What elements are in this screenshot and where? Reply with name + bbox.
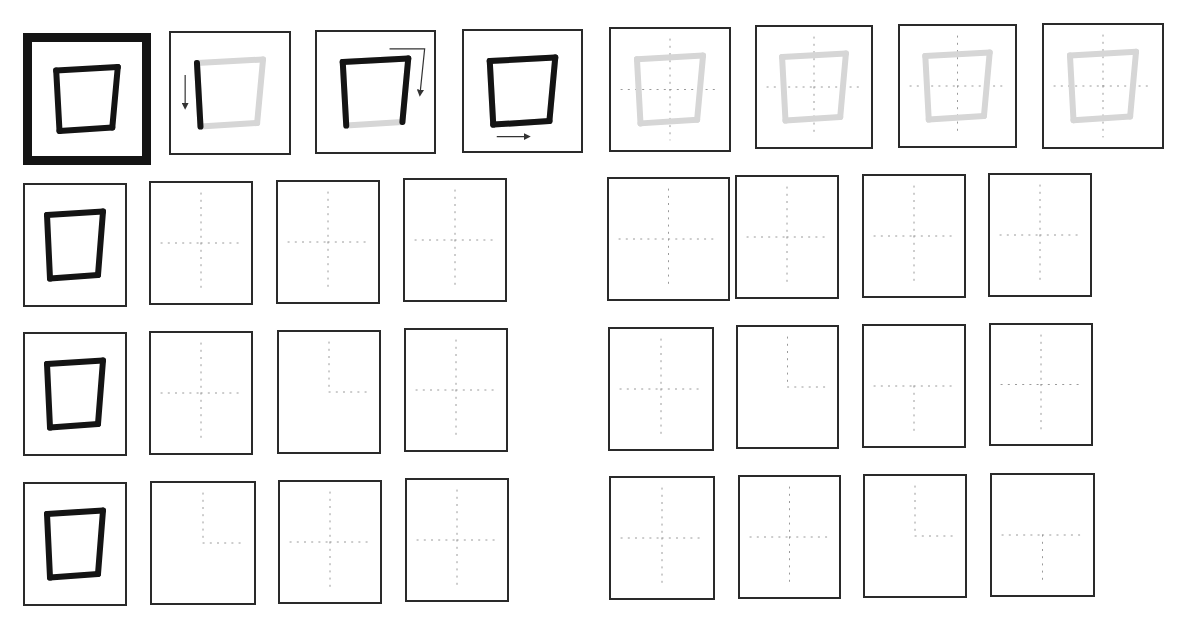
quadrilateral-edge: [47, 364, 50, 428]
drawing-panel-blank[interactable]: [276, 180, 380, 304]
panel-canvas: [865, 476, 965, 596]
panel-canvas: [464, 31, 581, 151]
drawing-panel-blank[interactable]: [149, 331, 253, 455]
panel-canvas: [610, 329, 712, 449]
stroke-order-panel: [315, 30, 436, 154]
panel-canvas: [151, 333, 251, 453]
drawing-panel-blank[interactable]: [405, 478, 509, 602]
drawing-panel-blank[interactable]: [150, 481, 256, 605]
drawing-panel-blank[interactable]: [738, 475, 841, 599]
quadrilateral-edge: [47, 211, 103, 215]
drawing-panel-blank[interactable]: [609, 476, 715, 600]
trace-panel[interactable]: [755, 25, 873, 149]
panel-canvas: [611, 29, 729, 150]
quadrilateral-edge: [56, 67, 118, 70]
trace-edge: [697, 56, 703, 120]
stroke-order-panel: [169, 31, 291, 155]
trace-edge: [1074, 117, 1131, 121]
trace-edge: [1070, 56, 1074, 121]
model-panel: [23, 332, 127, 456]
stroke-edge: [493, 121, 549, 125]
quadrilateral-edge: [98, 211, 103, 275]
quadrilateral-edge: [98, 360, 103, 424]
stroke-edge: [343, 58, 409, 62]
drawing-panel-blank[interactable]: [862, 174, 966, 298]
panel-canvas: [864, 176, 964, 296]
stroke-edge: [343, 62, 347, 126]
quadrilateral-edge: [98, 510, 103, 574]
quadrilateral-edge: [56, 71, 59, 131]
drawing-panel-blank[interactable]: [988, 173, 1092, 297]
trace-edge: [1130, 52, 1136, 117]
trace-edge: [984, 52, 990, 116]
trace-edge: [637, 56, 703, 60]
trace-panel[interactable]: [1042, 23, 1164, 149]
panel-canvas: [991, 325, 1091, 444]
panel-canvas: [1044, 25, 1162, 147]
drawing-panel-blank[interactable]: [607, 177, 730, 301]
trace-edge: [1070, 52, 1136, 56]
panel-canvas: [32, 42, 142, 156]
panel-canvas: [405, 180, 505, 300]
panel-canvas: [900, 26, 1015, 146]
trace-edge: [637, 59, 641, 123]
trace-edge: [840, 53, 846, 117]
stroke-edge: [490, 57, 556, 61]
drawing-panel-blank[interactable]: [149, 181, 253, 305]
trace-panel[interactable]: [609, 27, 731, 152]
stroke-edge: [549, 57, 555, 121]
quadrilateral-edge: [47, 510, 103, 514]
panel-canvas: [406, 330, 506, 450]
panel-canvas: [611, 478, 713, 598]
stroke-edge: [197, 63, 201, 127]
quadrilateral-edge: [50, 574, 98, 578]
trace-edge: [782, 57, 785, 121]
quadrilateral-edge: [47, 514, 50, 578]
trace-edge: [929, 116, 984, 120]
panel-canvas: [609, 179, 728, 299]
quadrilateral-edge: [112, 67, 118, 127]
drawing-panel-blank[interactable]: [278, 480, 382, 604]
stroke-edge: [402, 58, 408, 122]
trace-edge: [786, 117, 841, 121]
trace-edge: [641, 120, 698, 124]
stroke-order-panel: [462, 29, 583, 153]
quadrilateral-edge: [47, 360, 103, 364]
model-panel: [23, 33, 151, 165]
trace-edge: [925, 56, 928, 120]
drawing-panel-blank[interactable]: [862, 324, 966, 448]
trace-edge: [925, 52, 989, 56]
panel-canvas: [152, 483, 254, 603]
trace-edge: [782, 53, 846, 57]
quadrilateral-edge: [60, 128, 113, 131]
panel-canvas: [407, 480, 507, 600]
trace-panel[interactable]: [898, 24, 1017, 148]
panel-canvas: [151, 183, 251, 303]
panel-canvas: [317, 32, 434, 152]
panel-canvas: [171, 33, 289, 153]
drawing-panel-blank[interactable]: [277, 330, 381, 454]
panel-canvas: [25, 334, 125, 454]
quadrilateral-edge: [47, 215, 50, 279]
panel-canvas: [738, 327, 837, 447]
drawing-panel-blank[interactable]: [403, 178, 507, 302]
drawing-panel-blank[interactable]: [404, 328, 508, 452]
drawing-panel-blank[interactable]: [863, 474, 967, 598]
panel-canvas: [280, 482, 380, 602]
drawing-panel-blank[interactable]: [735, 175, 839, 299]
panel-canvas: [992, 475, 1093, 595]
drawing-panel-blank[interactable]: [990, 473, 1095, 597]
panel-canvas: [864, 326, 964, 446]
drawing-panel-blank[interactable]: [736, 325, 839, 449]
panel-canvas: [737, 177, 837, 297]
model-panel: [23, 183, 127, 307]
quadrilateral-edge: [50, 424, 98, 428]
panel-canvas: [757, 27, 871, 147]
panel-canvas: [740, 477, 839, 597]
stroke-edge: [490, 61, 494, 125]
panel-canvas: [25, 185, 125, 305]
quadrilateral-edge: [50, 275, 98, 279]
drawing-panel-blank[interactable]: [608, 327, 714, 451]
panel-canvas: [278, 182, 378, 302]
drawing-panel-blank[interactable]: [989, 323, 1093, 446]
